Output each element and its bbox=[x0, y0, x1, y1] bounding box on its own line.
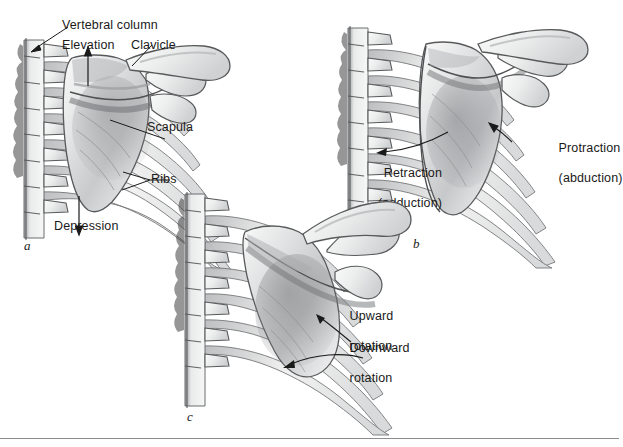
label-downward-rotation: Downward rotation bbox=[328, 326, 410, 401]
label-vertebral-column: Vertebral column bbox=[62, 18, 158, 32]
label-scapula: Scapula bbox=[147, 120, 193, 134]
label-protraction-line2: (abduction) bbox=[559, 171, 623, 185]
label-clavicle: Clavicle bbox=[131, 38, 176, 52]
panel-c: Upward rotation Downward rotation c bbox=[175, 190, 475, 435]
label-retraction-line1: Retraction bbox=[384, 166, 442, 180]
label-ribs: Ribs bbox=[151, 172, 177, 186]
panel-letter-c: c bbox=[187, 409, 193, 425]
label-upward-rotation-line1: Upward bbox=[350, 309, 394, 323]
label-protraction: Protraction (abduction) bbox=[537, 126, 623, 201]
label-downward-rotation-line2: rotation bbox=[350, 371, 393, 385]
label-depression: Depression bbox=[54, 219, 118, 233]
panel-c-illustration bbox=[175, 190, 475, 435]
clavicle-b bbox=[478, 30, 588, 65]
label-downward-rotation-line1: Downward bbox=[350, 341, 410, 355]
footer-divider-rule bbox=[0, 438, 619, 439]
panel-letter-a: a bbox=[24, 238, 31, 254]
label-protraction-line1: Protraction bbox=[559, 141, 621, 155]
label-elevation: Elevation bbox=[62, 38, 115, 52]
